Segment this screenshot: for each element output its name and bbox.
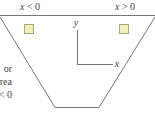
- label-x-positive: x > 0: [114, 1, 135, 12]
- right-square: [120, 25, 129, 34]
- side-text-line-2: rea: [0, 76, 13, 87]
- label-x-positive-rest: > 0: [119, 1, 135, 12]
- left-square: [25, 25, 34, 34]
- y-axis-label: y: [73, 17, 79, 28]
- side-text-line-1: or: [4, 63, 13, 74]
- label-x-negative: x < 0: [19, 1, 40, 12]
- cross-section-diagram: x < 0 x > 0 y x or rea < 0: [0, 0, 155, 125]
- side-text-line-3: < 0: [0, 89, 12, 100]
- x-axis-label: x: [114, 58, 120, 69]
- label-x-negative-rest: < 0: [24, 1, 40, 12]
